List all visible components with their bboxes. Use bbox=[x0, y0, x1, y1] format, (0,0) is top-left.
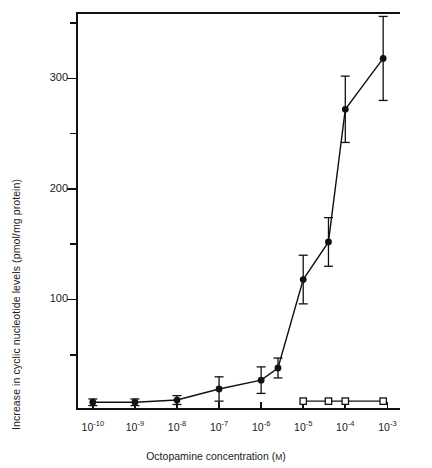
data-point-filled-circle bbox=[174, 397, 181, 404]
y-tick bbox=[67, 299, 76, 301]
data-point-open-square bbox=[342, 398, 348, 404]
data-point-open-square bbox=[325, 398, 331, 404]
data-point-filled-circle bbox=[275, 365, 282, 372]
data-point-filled-circle bbox=[89, 399, 96, 406]
y-tick bbox=[67, 188, 76, 190]
x-tick-label: 10-8 bbox=[168, 419, 186, 433]
data-point-filled-circle bbox=[300, 276, 307, 283]
x-tick-label: 10-5 bbox=[294, 419, 312, 433]
data-layer bbox=[76, 12, 400, 410]
data-point-filled-circle bbox=[380, 55, 387, 62]
x-tick-label: 10-7 bbox=[210, 419, 228, 433]
data-point-filled-circle bbox=[342, 106, 349, 113]
data-point-open-square bbox=[380, 398, 386, 404]
data-point-filled-circle bbox=[325, 239, 332, 246]
y-tick-label: 200 bbox=[28, 182, 68, 194]
x-tick-label: 10-6 bbox=[252, 419, 270, 433]
data-point-filled-circle bbox=[258, 377, 265, 384]
series-line-octopamine-stimulated bbox=[93, 58, 383, 402]
plot-area: 100200300 10-1010-910-810-710-610-510-41… bbox=[76, 12, 400, 410]
y-tick bbox=[67, 78, 76, 80]
x-tick-label: 10-10 bbox=[82, 419, 105, 433]
x-tick-label: 10-4 bbox=[336, 419, 354, 433]
x-axis-title-main: Octopamine concentration ( bbox=[146, 450, 275, 462]
chart-container: Increase in cyclic nucleotide levels (pm… bbox=[0, 0, 432, 468]
x-tick-label: 10-9 bbox=[126, 419, 144, 433]
data-point-filled-circle bbox=[216, 386, 223, 393]
x-axis-title-close: ) bbox=[282, 450, 286, 462]
y-tick-label: 100 bbox=[28, 292, 68, 304]
x-axis-title: Octopamine concentration (M) bbox=[0, 450, 432, 462]
data-point-open-square bbox=[300, 398, 306, 404]
x-tick-label: 10-3 bbox=[378, 419, 396, 433]
data-point-filled-circle bbox=[132, 399, 139, 406]
y-tick-label: 300 bbox=[28, 71, 68, 83]
